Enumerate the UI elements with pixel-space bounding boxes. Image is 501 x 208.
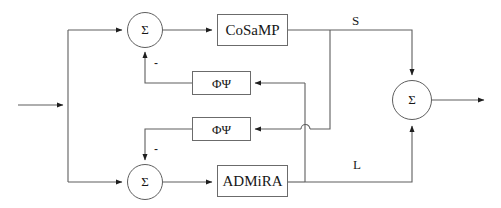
block-phi-psi-bottom-label: ΦΨ (212, 123, 231, 136)
block-phi-psi-top[interactable]: ΦΨ (192, 71, 251, 95)
block-cosamp-label: CoSaMP (225, 23, 279, 38)
wire-phipsi-top-to-sum-top (145, 52, 192, 83)
block-cosamp[interactable]: CoSaMP (217, 14, 288, 46)
wire-l-to-output-sum (305, 126, 412, 182)
minus-sign-top: - (154, 56, 158, 70)
summing-junction-output-label: Σ (408, 92, 416, 108)
summing-junction-bottom[interactable]: Σ (127, 164, 163, 200)
block-phi-psi-top-label: ΦΨ (212, 77, 231, 90)
minus-sign-bottom: - (154, 142, 158, 156)
wire-phipsi-bottom-to-sum-bottom (145, 129, 192, 160)
wire-s-feedback-branch (310, 30, 330, 129)
summing-junction-bottom-label: Σ (141, 174, 149, 190)
signal-label-l: L (353, 157, 361, 173)
block-phi-psi-bottom[interactable]: ΦΨ (192, 117, 251, 141)
summing-junction-top[interactable]: Σ (127, 12, 163, 48)
block-admira[interactable]: ADMiRA (217, 165, 288, 197)
wire-s-to-output-sum (330, 30, 412, 75)
block-admira-label: ADMiRA (222, 174, 282, 189)
signal-label-s: S (352, 13, 359, 29)
summing-junction-top-label: Σ (141, 22, 149, 38)
summing-junction-output[interactable]: Σ (392, 80, 432, 120)
block-diagram: CoSaMP ADMiRA ΦΨ ΦΨ Σ Σ Σ - - S L (0, 0, 501, 208)
